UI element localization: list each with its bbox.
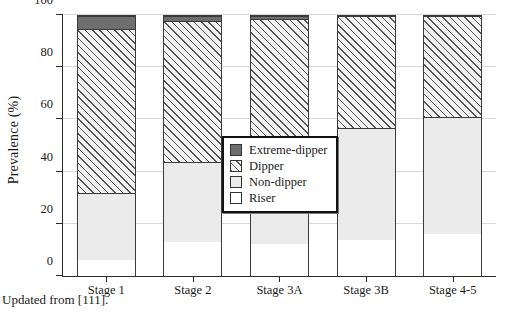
stacked-bar-stage-3b[interactable] — [337, 15, 396, 276]
legend-item-riser[interactable]: Riser — [230, 190, 327, 206]
bar-segment-stage-1-dipper[interactable] — [78, 29, 135, 193]
stacked-bar-stage-2[interactable] — [163, 15, 222, 276]
bar-segment-stage-1-non-dipper[interactable] — [78, 193, 135, 261]
y-axis-tick — [56, 275, 63, 276]
y-axis-tick — [56, 223, 63, 224]
bar-segment-stage-1-riser[interactable] — [78, 260, 135, 276]
bar-segment-stage-2-extreme-dipper[interactable] — [164, 16, 221, 21]
legend-label-dipper: Dipper — [249, 159, 284, 174]
y-axis-tick — [56, 118, 63, 119]
x-axis-tick — [366, 276, 367, 282]
x-axis-tick — [193, 276, 194, 282]
x-axis-tick — [106, 276, 107, 282]
legend-label-riser: Riser — [249, 191, 275, 206]
stacked-bar-stage-4-5[interactable] — [423, 15, 482, 276]
legend-swatch-non-dipper — [230, 176, 242, 188]
bar-segment-stage-4-5-riser[interactable] — [424, 234, 481, 276]
y-axis-tick-label: 100 — [34, 0, 53, 8]
legend-swatch-riser — [230, 192, 242, 204]
x-axis-tick-label-stage-3a: Stage 3A — [256, 283, 302, 298]
x-axis-tick — [453, 276, 454, 282]
stacked-bar-stage-1[interactable] — [77, 15, 136, 276]
x-axis-tick-label-stage-4-5: Stage 4-5 — [429, 283, 477, 298]
y-axis-title-text: Prevalence (%) — [6, 96, 22, 185]
y-axis-tick-label: 20 — [41, 201, 54, 216]
bar-segment-stage-1-extreme-dipper[interactable] — [78, 16, 135, 29]
bar-segment-stage-3a-dipper[interactable] — [251, 19, 308, 152]
y-axis-tick — [56, 66, 63, 67]
chart-legend: Extreme-dipperDipperNon-dipperRiser — [222, 136, 338, 213]
legend-item-extreme-dipper[interactable]: Extreme-dipper — [230, 142, 327, 158]
bar-segment-stage-2-dipper[interactable] — [164, 21, 221, 161]
y-axis-tick — [56, 14, 63, 15]
bar-segment-stage-3b-riser[interactable] — [338, 240, 395, 276]
legend-swatch-extreme-dipper — [230, 144, 242, 156]
bar-segment-stage-4-5-non-dipper[interactable] — [424, 117, 481, 234]
bar-segment-stage-3b-dipper[interactable] — [338, 16, 395, 128]
bar-group-stage-1: Stage 1 — [63, 15, 150, 276]
bar-group-stage-4-5: Stage 4-5 — [409, 15, 496, 276]
bar-segment-stage-3a-riser[interactable] — [251, 244, 308, 277]
figure: Prevalence (%) 020406080100Stage 1Stage … — [0, 0, 511, 320]
x-axis-tick — [279, 276, 280, 282]
y-axis-tick-label: 0 — [47, 254, 53, 269]
bar-segment-stage-2-riser[interactable] — [164, 242, 221, 276]
legend-item-dipper[interactable]: Dipper — [230, 158, 327, 174]
y-axis-tick — [56, 171, 63, 172]
x-axis-tick-label-stage-3b: Stage 3B — [343, 283, 388, 298]
bar-segment-stage-2-non-dipper[interactable] — [164, 162, 221, 243]
figure-caption: Updated from [111]. — [2, 292, 108, 308]
y-axis-tick-label: 60 — [41, 97, 54, 112]
bar-segment-stage-4-5-dipper[interactable] — [424, 16, 481, 117]
legend-label-non-dipper: Non-dipper — [249, 175, 307, 190]
legend-swatch-dipper — [230, 160, 242, 172]
legend-label-extreme-dipper: Extreme-dipper — [249, 143, 327, 158]
y-axis-tick-label: 40 — [41, 149, 54, 164]
bar-segment-stage-3b-non-dipper[interactable] — [338, 128, 395, 240]
x-axis-tick-label-stage-2: Stage 2 — [174, 283, 211, 298]
y-axis-title: Prevalence (%) — [2, 0, 26, 280]
y-axis-tick-label: 80 — [41, 45, 54, 60]
legend-item-non-dipper[interactable]: Non-dipper — [230, 174, 327, 190]
bar-segment-stage-3a-extreme-dipper[interactable] — [251, 16, 308, 19]
